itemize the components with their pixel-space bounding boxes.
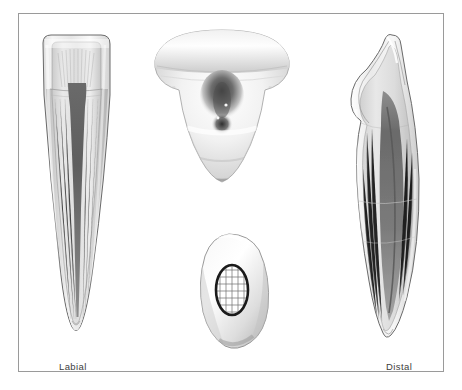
view-labial-section: [31, 29, 123, 341]
view-label-labial: Labial: [59, 361, 87, 372]
distal-tooth-drawing: [337, 29, 437, 341]
incisal-highlight-dot-1: [224, 103, 227, 106]
incisal-fossa-core: [213, 82, 231, 118]
view-label-distal: Distal: [386, 361, 412, 372]
view-distal-section: [337, 29, 437, 341]
cross-section-drawing: [179, 228, 285, 354]
view-incisal-lingual: [147, 24, 297, 190]
incisal-highlight-dot-2: [217, 117, 220, 120]
labial-tooth-drawing: [31, 29, 123, 341]
incisal-marginal-ridge: [153, 28, 291, 73]
view-root-cross-section: [179, 228, 285, 354]
labial-incisal-highlight: [45, 39, 109, 48]
incisal-tooth-drawing: [147, 24, 297, 190]
figure-frame: Labial Distal: [18, 13, 444, 372]
